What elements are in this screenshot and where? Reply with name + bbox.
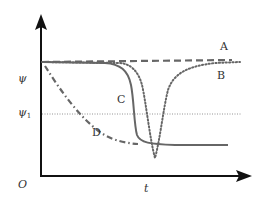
origin-label: O	[18, 179, 27, 190]
psi1-subscript: 1	[27, 112, 31, 120]
diagram-canvas	[0, 0, 267, 208]
curve-label-b: B	[217, 70, 225, 81]
x-axis-label-t: t	[144, 183, 148, 194]
curve-label-d: D	[92, 127, 101, 138]
y-axis-label-psi1: ψ1	[18, 107, 31, 120]
psi1-symbol: ψ	[18, 106, 27, 119]
curve-label-a: A	[220, 41, 228, 52]
curve-label-c: C	[117, 94, 125, 105]
y-axis-label-psi: ψ	[18, 73, 27, 84]
curve-b	[42, 62, 240, 158]
